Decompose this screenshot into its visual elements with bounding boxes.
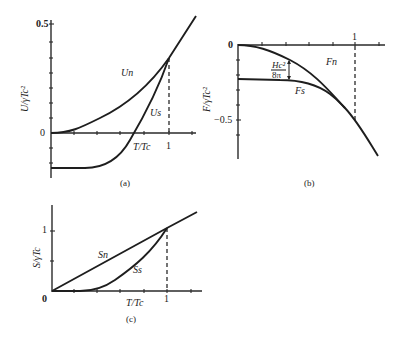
- panel-a-label-un: Un: [121, 67, 133, 78]
- panel-b-curve-fs: [238, 79, 345, 108]
- panel-a-xtick-1: 1: [166, 140, 171, 151]
- panel-c-xtick-1: 1: [164, 293, 169, 304]
- panel-b-label-fn: Fn: [325, 56, 337, 67]
- panel-b-gap-denominator: 8π: [272, 70, 282, 80]
- panel-c-ylabel: S/γTc: [31, 247, 42, 268]
- panel-c: 1 0 1 T/Tc S/γTc Sn Ss (c): [31, 205, 202, 324]
- panel-a-label-us: Us: [150, 107, 161, 118]
- panel-a-xlabel: T/Tc: [133, 141, 151, 152]
- panel-a-ylabel: U/γTc²: [19, 85, 30, 112]
- panel-b: 0 −0.5 1 F/γTc² Hc² 8π Fn Fs (b): [201, 31, 385, 188]
- panel-a-caption: (a): [120, 178, 130, 188]
- panel-b-ylabel: F/γTc²: [201, 86, 212, 113]
- panel-b-label-fs: Fs: [294, 85, 305, 96]
- figure: 0.5 0 1 T/Tc U/γTc² Un Us (a): [0, 0, 407, 337]
- panel-a-ytick-0.5: 0.5: [36, 18, 49, 29]
- panel-b-ytick-neg0.5: −0.5: [214, 114, 232, 125]
- panel-b-ytick-0: 0: [228, 39, 233, 50]
- panel-a-ytick-0: 0: [40, 127, 45, 138]
- panel-b-xtick-1: 1: [352, 31, 357, 42]
- panel-a: 0.5 0 1 T/Tc U/γTc² Un Us (a): [19, 16, 196, 188]
- panel-c-curve-sn: [52, 212, 197, 291]
- panel-c-label-ss: Ss: [133, 264, 142, 275]
- panel-c-origin: 0: [42, 293, 47, 304]
- panel-b-curve-fn: [238, 45, 378, 156]
- panel-c-caption: (c): [126, 314, 136, 324]
- panel-c-xlabel: T/Tc: [126, 297, 144, 308]
- panel-c-label-sn: Sn: [98, 249, 108, 260]
- panel-b-gap-numerator: Hc²: [271, 60, 285, 70]
- panel-b-caption: (b): [304, 178, 315, 188]
- panel-c-ytick-1: 1: [42, 224, 47, 235]
